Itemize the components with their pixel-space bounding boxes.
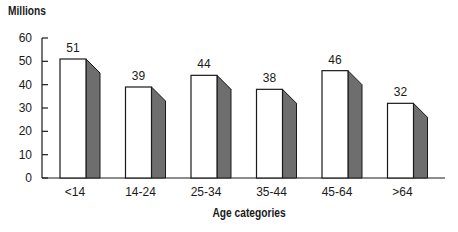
- bar: [257, 89, 283, 178]
- bar: [60, 59, 86, 178]
- x-tick-label: 45-64: [322, 185, 353, 199]
- x-tick-label: 25-34: [191, 185, 222, 199]
- bar-side: [152, 87, 166, 178]
- x-tick-label: 35-44: [256, 185, 287, 199]
- data-label: 38: [263, 71, 277, 85]
- bar: [388, 103, 414, 178]
- data-label: 39: [132, 69, 146, 83]
- bar-side: [217, 75, 231, 178]
- bar: [126, 87, 152, 178]
- y-tick-label: 50: [19, 54, 33, 68]
- y-tick-label: 60: [19, 31, 33, 45]
- y-tick-label: 40: [19, 78, 33, 92]
- y-tick-label: 30: [19, 101, 33, 115]
- y-tick-label: 10: [19, 148, 33, 162]
- x-tick-label: >64: [392, 185, 413, 199]
- bar-side: [283, 89, 297, 178]
- data-label: 51: [66, 41, 80, 55]
- bar-chart: 010203040506051<143914-244425-343835-444…: [0, 0, 458, 232]
- data-label: 46: [328, 53, 342, 67]
- y-tick-label: 20: [19, 124, 33, 138]
- bar: [322, 71, 348, 178]
- data-label: 44: [197, 57, 211, 71]
- bar-side: [86, 59, 100, 178]
- bar: [191, 75, 217, 178]
- x-axis-title-wrap: Age categories: [0, 206, 458, 220]
- bar-side: [348, 71, 362, 178]
- bar-side: [414, 103, 428, 178]
- data-label: 32: [394, 85, 408, 99]
- x-tick-label: 14-24: [125, 185, 156, 199]
- x-tick-label: <14: [65, 185, 86, 199]
- x-axis-title: Age categories: [212, 206, 285, 220]
- y-tick-label: 0: [25, 171, 32, 185]
